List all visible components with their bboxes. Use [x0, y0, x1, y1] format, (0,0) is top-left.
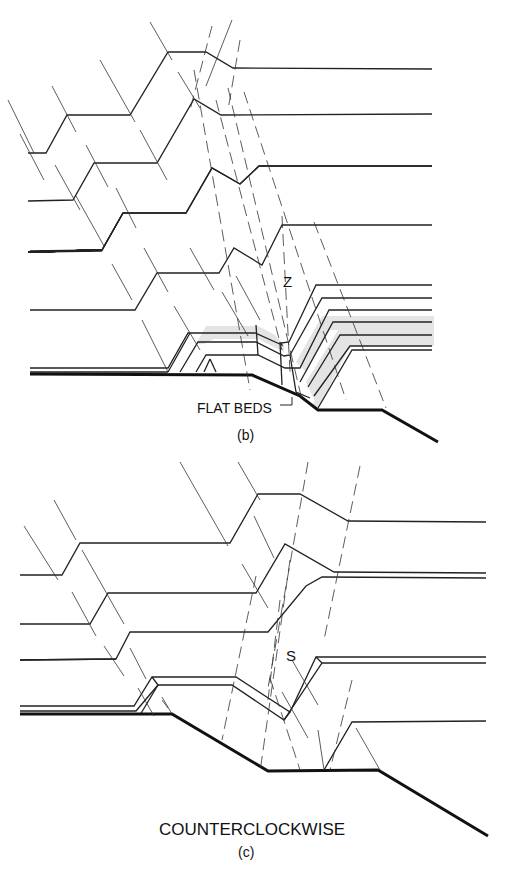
z-fold-label: Z: [283, 273, 292, 290]
panel-c-diagram: [20, 462, 488, 836]
flat-beds-annotation: FLAT BEDS: [197, 400, 272, 416]
panel-c-title: COUNTERCLOCKWISE: [159, 820, 345, 840]
panel-c-caption: (c): [238, 844, 254, 860]
s-fold-label: S: [286, 647, 296, 664]
panel-b-diagram: [8, 20, 438, 442]
panel-b-caption: (b): [237, 427, 254, 443]
